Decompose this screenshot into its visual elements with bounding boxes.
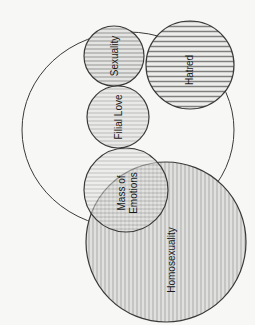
- label-filial-love: Filial Love: [113, 94, 124, 139]
- circle-sexuality: Sexuality: [84, 26, 144, 86]
- circle-hatred: Hatred: [146, 21, 234, 109]
- label-hatred: Hatred: [184, 55, 195, 85]
- label-mass-of-emotions-line1: Mass of: [116, 175, 127, 210]
- label-homosexuality: Homosexuality: [166, 227, 177, 293]
- circle-mass-of-emotions: Mass of Emotions: [84, 148, 168, 232]
- circle-filial-love: Filial Love: [87, 86, 149, 148]
- label-mass-of-emotions-line2: Emotions: [128, 172, 139, 214]
- emotions-venn-diagram: Sexuality Hatred Filial Love Homosexuali…: [0, 0, 255, 325]
- label-sexuality: Sexuality: [109, 36, 120, 77]
